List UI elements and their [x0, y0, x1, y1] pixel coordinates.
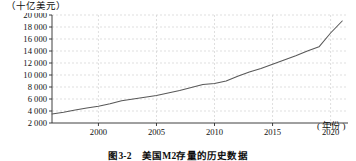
y-tick-label: 8 000 [28, 82, 47, 92]
x-tick-label: 2010 [206, 127, 223, 137]
y-axis-ticks: 2 0004 0006 0008 00010 00012 00014 00016… [23, 13, 52, 128]
y-axis-unit-label: （十亿美元） [6, 1, 66, 12]
data-series-line [52, 21, 342, 114]
plot-area-wrapper: 2 0004 0006 0008 00010 00012 00014 00016… [0, 13, 356, 139]
x-axis-ticks: 20002005201020152020 [90, 123, 339, 137]
y-tick-label: 6 000 [28, 94, 47, 104]
figure-caption: 图3-2 美国M2存量的历史数据 [0, 150, 356, 161]
figure-container: （十亿美元） 2 0004 0006 0008 00010 00012 0001… [0, 0, 356, 161]
y-tick-label: 2 000 [28, 118, 47, 128]
x-tick-label: 2015 [264, 127, 281, 137]
y-tick-label: 12 000 [23, 58, 47, 68]
y-tick-label: 14 000 [23, 46, 47, 56]
y-tick-label: 20 000 [23, 13, 47, 20]
line-chart: 2 0004 0006 0008 00010 00012 00014 00016… [0, 13, 356, 139]
y-tick-label: 16 000 [23, 34, 47, 44]
x-axis-unit-label: ( 年份 ) [317, 121, 346, 132]
y-tick-label: 4 000 [28, 106, 47, 116]
x-tick-label: 2000 [90, 127, 107, 137]
x-tick-label: 2005 [148, 127, 165, 137]
y-tick-label: 10 000 [23, 70, 47, 80]
y-tick-label: 18 000 [23, 22, 47, 32]
